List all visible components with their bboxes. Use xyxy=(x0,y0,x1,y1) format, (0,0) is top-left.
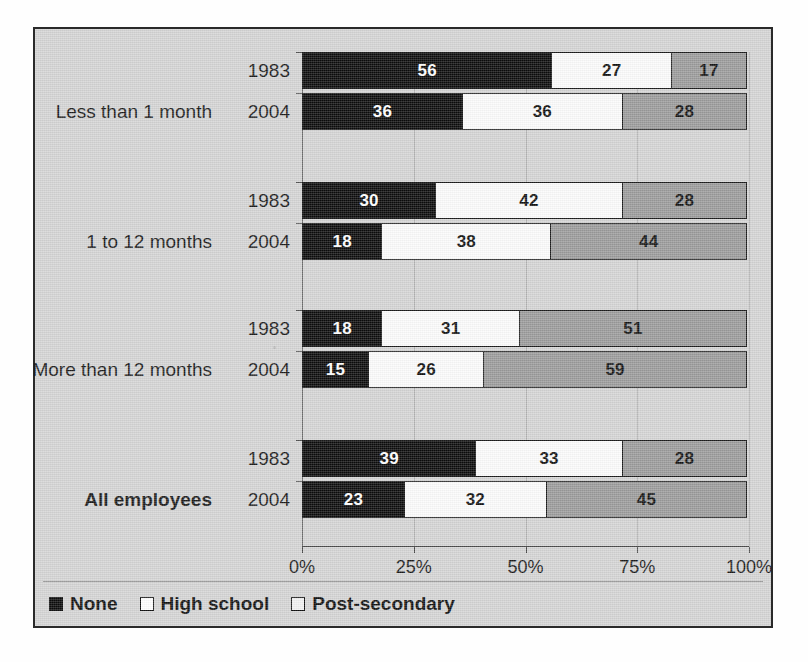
bar-segment-high-school: 26 xyxy=(368,351,484,388)
row-year-label: 1983 xyxy=(220,448,290,470)
bar-segment-high-school: 36 xyxy=(462,93,623,130)
bar-segment-none: 23 xyxy=(302,481,405,518)
stacked-bar: 183151 xyxy=(302,310,749,347)
stacked-bar: 183844 xyxy=(302,223,749,260)
bar-segment-none: 18 xyxy=(302,310,382,347)
x-axis-label-75%: 75% xyxy=(619,557,655,578)
gridline-100% xyxy=(749,52,750,547)
bar-segment-post-secondary: 28 xyxy=(622,93,747,130)
legend-swatch-icon xyxy=(49,597,63,611)
bar-segment-post-secondary: 44 xyxy=(550,223,747,260)
stacked-bar: 304228 xyxy=(302,182,749,219)
bar-segment-none: 36 xyxy=(302,93,463,130)
x-axis-label-25%: 25% xyxy=(396,557,432,578)
bar-segment-post-secondary: 51 xyxy=(519,310,747,347)
stacked-bar: 363628 xyxy=(302,93,749,130)
bar-segment-post-secondary: 28 xyxy=(622,182,747,219)
paper-speck xyxy=(273,346,276,349)
x-tick-100% xyxy=(749,547,750,553)
legend-label: Post-secondary xyxy=(312,593,455,615)
chart-legend: NoneHigh schoolPost-secondary xyxy=(43,581,763,626)
legend-item[interactable]: Post-secondary xyxy=(291,593,455,615)
legend-item[interactable]: None xyxy=(49,593,118,615)
x-axis-label-100%: 100% xyxy=(726,557,772,578)
row-year-label: 2004 xyxy=(220,359,290,381)
x-tick-0% xyxy=(302,547,303,553)
legend-label: None xyxy=(70,593,118,615)
bar-segment-none: 15 xyxy=(302,351,369,388)
legend-swatch-icon xyxy=(291,597,305,611)
bar-segment-high-school: 33 xyxy=(475,440,623,477)
stacked-bar: 233245 xyxy=(302,481,749,518)
row-year-label: 2004 xyxy=(220,101,290,123)
group-label: All employees xyxy=(84,489,212,511)
stacked-bar: 562717 xyxy=(302,52,749,89)
x-tick-25% xyxy=(414,547,415,553)
chart-frame: NoneHigh schoolPost-secondary 0%25%50%75… xyxy=(33,27,773,628)
bar-segment-none: 39 xyxy=(302,440,476,477)
legend-label: High school xyxy=(161,593,270,615)
x-tick-75% xyxy=(637,547,638,553)
bar-segment-none: 18 xyxy=(302,223,382,260)
bar-segment-post-secondary: 28 xyxy=(622,440,747,477)
bar-segment-none: 30 xyxy=(302,182,436,219)
bar-segment-high-school: 27 xyxy=(551,52,672,89)
row-year-label: 1983 xyxy=(220,60,290,82)
row-year-label: 1983 xyxy=(220,190,290,212)
group-label: More than 12 months xyxy=(32,359,212,381)
x-axis-label-50%: 50% xyxy=(507,557,543,578)
bar-segment-high-school: 42 xyxy=(435,182,623,219)
legend-item[interactable]: High school xyxy=(140,593,270,615)
row-year-label: 2004 xyxy=(220,489,290,511)
stacked-bar: 393328 xyxy=(302,440,749,477)
bar-segment-post-secondary: 45 xyxy=(546,481,747,518)
bar-segment-high-school: 32 xyxy=(404,481,547,518)
x-tick-50% xyxy=(526,547,527,553)
legend-swatch-icon xyxy=(140,597,154,611)
bar-segment-high-school: 38 xyxy=(381,223,551,260)
bar-segment-high-school: 31 xyxy=(381,310,520,347)
bar-segment-post-secondary: 59 xyxy=(483,351,747,388)
group-label: 1 to 12 months xyxy=(86,231,212,253)
bar-segment-post-secondary: 17 xyxy=(671,52,747,89)
bar-segment-none: 56 xyxy=(302,52,552,89)
row-year-label: 2004 xyxy=(220,231,290,253)
row-year-label: 1983 xyxy=(220,318,290,340)
x-axis-label-0%: 0% xyxy=(289,557,315,578)
group-label: Less than 1 month xyxy=(56,101,212,123)
stacked-bar: 152659 xyxy=(302,351,749,388)
